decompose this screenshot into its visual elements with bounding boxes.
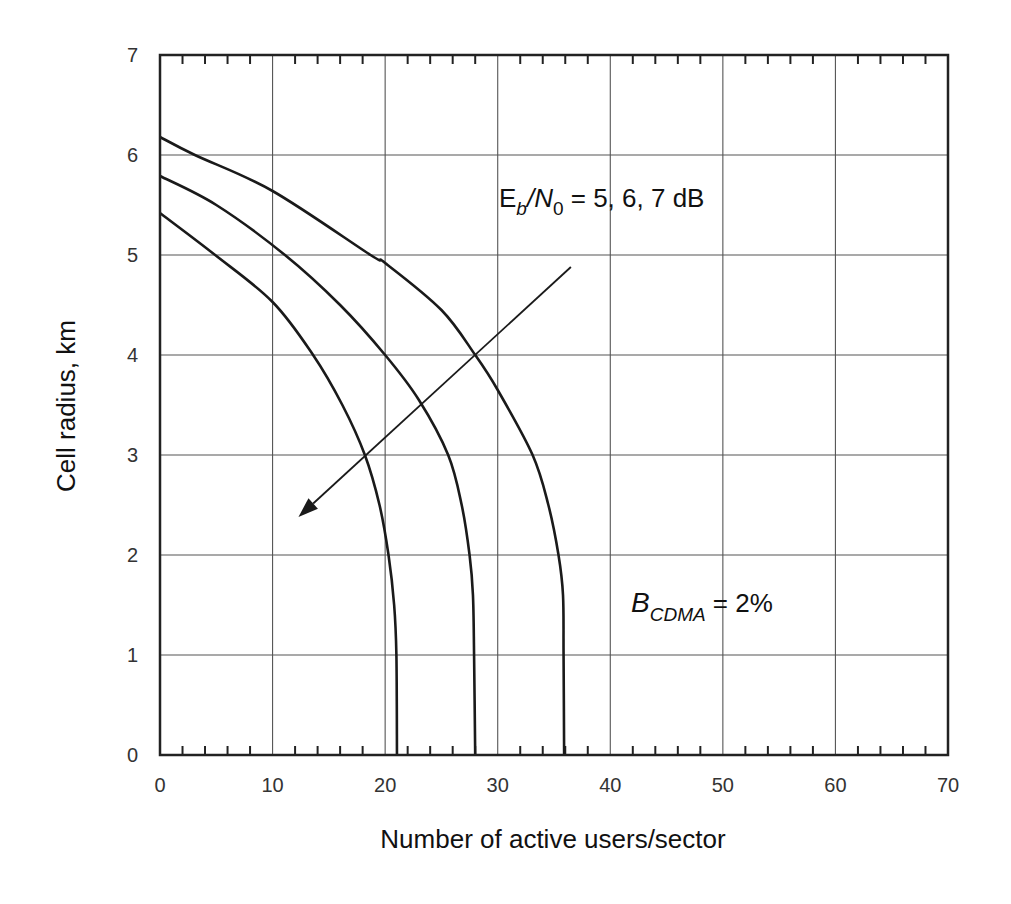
y-tick-label: 3 bbox=[127, 444, 138, 466]
x-tick-label: 40 bbox=[599, 774, 621, 796]
bcdma-annotation: BCDMA = 2% bbox=[631, 587, 773, 625]
y-axis-title: Cell radius, km bbox=[51, 320, 81, 492]
x-tick-label: 70 bbox=[937, 774, 959, 796]
y-tick-label: 2 bbox=[127, 544, 138, 566]
x-axis-title: Number of active users/sector bbox=[380, 824, 726, 854]
y-tick-label: 6 bbox=[127, 144, 138, 166]
x-tick-label: 30 bbox=[487, 774, 509, 796]
y-tick-label: 0 bbox=[127, 744, 138, 766]
data-series bbox=[160, 137, 564, 755]
y-tick-label: 4 bbox=[127, 344, 138, 366]
cell-radius-chart: 010203040506070 01234567 Number of activ… bbox=[0, 0, 1011, 904]
x-tick-label: 60 bbox=[824, 774, 846, 796]
y-tick-label: 1 bbox=[127, 644, 138, 666]
series-line bbox=[160, 176, 475, 755]
x-tick-label: 0 bbox=[154, 774, 165, 796]
minor-ticks bbox=[183, 55, 926, 755]
y-tick-labels: 01234567 bbox=[127, 44, 138, 766]
ebn0-annotation: Eb/N0 = 5, 6, 7 dB bbox=[499, 183, 704, 219]
y-tick-label: 7 bbox=[127, 44, 138, 66]
x-tick-label: 20 bbox=[374, 774, 396, 796]
x-tick-labels: 010203040506070 bbox=[154, 774, 959, 796]
series-line bbox=[160, 213, 397, 755]
x-tick-label: 10 bbox=[261, 774, 283, 796]
grid-lines bbox=[160, 55, 948, 755]
plot-frame bbox=[160, 55, 948, 755]
x-tick-label: 50 bbox=[712, 774, 734, 796]
y-tick-label: 5 bbox=[127, 244, 138, 266]
